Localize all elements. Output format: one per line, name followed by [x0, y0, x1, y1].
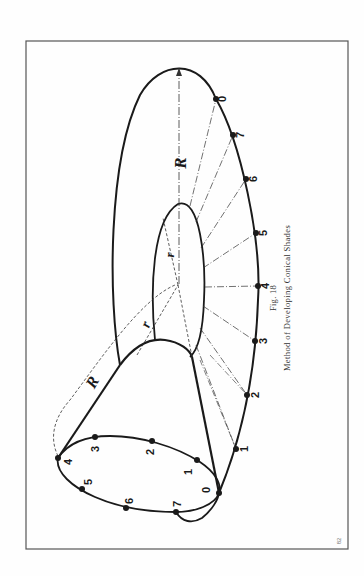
- cone-top-arc: [120, 340, 192, 365]
- base-label-7: 7: [171, 501, 183, 507]
- base-label-2: 2: [144, 449, 156, 455]
- base-label-6: 6: [123, 498, 135, 504]
- lower-radial-line: [210, 355, 247, 395]
- lower-radial-line: [200, 360, 236, 449]
- base-label-1: 1: [182, 469, 194, 475]
- figure-label: Fig. 18: [268, 178, 278, 418]
- label-R-slant: R: [82, 373, 103, 392]
- outer-label-0: 0: [216, 96, 228, 102]
- page-number: 82: [336, 538, 342, 545]
- conical-shade-diagram: 0 7 6 5 4 3 2 1 0 1 2 3 4 5 6 7 R R r r: [0, 0, 364, 576]
- label-R-outer: R: [171, 157, 190, 169]
- cone-right-edge: [192, 357, 219, 493]
- cone-base-ellipse: [58, 436, 220, 512]
- center-to-cone-line: [178, 285, 192, 357]
- base-label-3: 3: [89, 446, 101, 452]
- base-point-dots: [55, 434, 222, 515]
- outer-label-6: 6: [247, 176, 259, 182]
- book-page: 0 7 6 5 4 3 2 1 0 1 2 3 4 5 6 7 R R r r: [0, 0, 364, 576]
- base-label-0: 0: [200, 487, 212, 493]
- outer-label-7: 7: [234, 132, 246, 138]
- label-r-inner: r: [162, 252, 177, 258]
- outer-label-2: 2: [249, 392, 261, 398]
- inner-radius-r-line: [163, 218, 178, 285]
- figure-title: Method of Developing Conical Shades: [282, 178, 292, 418]
- base-label-5: 5: [82, 479, 94, 485]
- outer-label-1: 1: [238, 446, 250, 452]
- inner-ellipse: [153, 203, 205, 357]
- label-r-small: r: [138, 319, 154, 330]
- base-label-4: 4: [62, 458, 74, 465]
